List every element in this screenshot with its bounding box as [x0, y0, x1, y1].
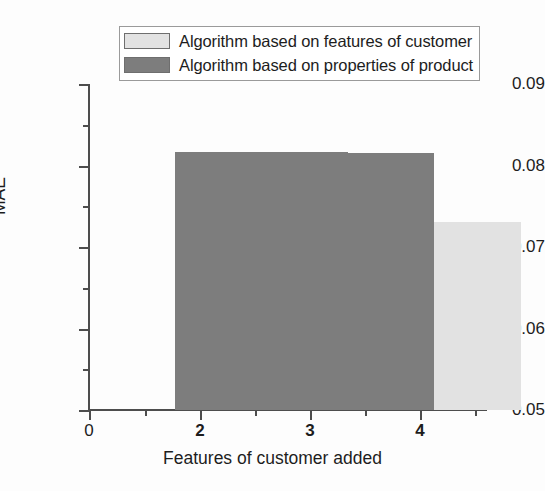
- x-tick-label-4: 4: [400, 421, 440, 441]
- bar-dark-2: [175, 152, 262, 410]
- y-axis-title: MAE: [0, 177, 10, 215]
- y-tick-0.05: [79, 410, 89, 412]
- bar-light-4: [434, 222, 521, 410]
- legend-swatch-dark: [124, 57, 170, 73]
- x-tick-minor-3.5: [365, 410, 367, 416]
- x-tick-2: [200, 410, 202, 420]
- x-tick-minor-2.5: [255, 410, 257, 416]
- x-tick-label-2: 2: [180, 421, 220, 441]
- x-tick-label-3: 3: [290, 421, 330, 441]
- x-tick-3: [310, 410, 312, 420]
- x-tick-4: [420, 410, 422, 420]
- legend-label-features-of-customer: Algorithm based on features of customer: [179, 32, 472, 51]
- chart-legend: Algorithm based on features of customer …: [119, 26, 480, 81]
- bar-dark-3: [261, 152, 348, 410]
- x-tick-label-0: 0: [69, 421, 109, 441]
- legend-label-properties-of-product: Algorithm based on properties of product: [179, 56, 473, 75]
- legend-item-properties-of-product: Algorithm based on properties of product: [124, 53, 473, 77]
- legend-swatch-light: [124, 33, 170, 49]
- chart-figure: Algorithm based on features of customer …: [0, 0, 545, 491]
- x-tick-minor-4.5: [475, 410, 477, 416]
- legend-item-features-of-customer: Algorithm based on features of customer: [124, 29, 473, 53]
- bar-dark-4: [348, 153, 435, 410]
- x-tick-0: [89, 410, 91, 420]
- x-tick-minor-1.5: [145, 410, 147, 416]
- plot-area: [88, 84, 486, 410]
- x-axis-title: Features of customer added: [0, 448, 545, 469]
